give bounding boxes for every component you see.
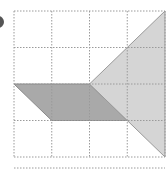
item-marker-icon — [0, 16, 4, 28]
grid-diagram — [0, 0, 167, 177]
